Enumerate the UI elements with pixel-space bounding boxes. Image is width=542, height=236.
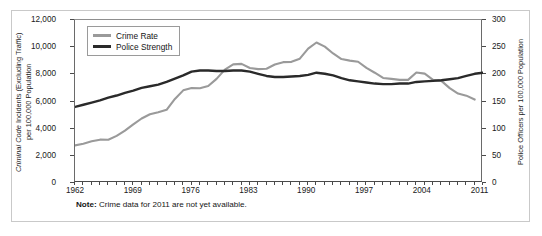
right-tick-200: 200 (492, 69, 506, 78)
left-tick-10000: 10,000 (31, 42, 56, 51)
x-minor-tick-1962 (74, 182, 75, 185)
x-tick-1969: 1969 (124, 186, 142, 195)
x-tick-1997: 1997 (355, 186, 373, 195)
x-minor-tick-1966 (107, 182, 108, 185)
x-minor-tick-1993 (332, 182, 333, 185)
x-minor-tick-1979 (216, 182, 217, 185)
x-minor-tick-2002 (407, 182, 408, 185)
left-tick-8000: 8,000 (36, 69, 57, 78)
x-minor-tick-1981 (232, 182, 233, 185)
x-minor-tick-1968 (124, 182, 125, 185)
x-minor-tick-2004 (424, 182, 425, 185)
x-minor-tick-2001 (399, 182, 400, 185)
x-minor-tick-1973 (166, 182, 167, 185)
legend-label-crime-rate: Crime Rate (116, 31, 158, 41)
x-minor-tick-1975 (182, 182, 183, 185)
x-minor-tick-1989 (299, 182, 300, 185)
legend-item-police-strength: Police Strength (93, 41, 172, 52)
legend-label-police-strength: Police Strength (116, 42, 172, 52)
x-minor-tick-1964 (91, 182, 92, 185)
left-tick-0: 0 (51, 178, 56, 187)
x-minor-tick-2009 (465, 182, 466, 185)
figure-note-label: Note: (76, 200, 97, 209)
x-minor-tick-2000 (390, 182, 391, 185)
x-minor-tick-1982 (241, 182, 242, 185)
x-tick-1962: 1962 (66, 186, 84, 195)
x-minor-tick-2008 (457, 182, 458, 185)
right-axis-title: Police Officers per 100,000 Population (516, 16, 526, 188)
x-tick-2011: 2011 (471, 186, 489, 195)
x-minor-tick-1974 (174, 182, 175, 185)
x-minor-tick-1963 (82, 182, 83, 185)
x-tick-1990: 1990 (297, 186, 315, 195)
left-tick-4000: 4,000 (36, 123, 57, 132)
figure-note-text: Crime data for 2011 are not yet availabl… (97, 200, 247, 209)
x-minor-tick-1994 (340, 182, 341, 185)
x-minor-tick-1983 (249, 182, 250, 185)
left-axis-title-line2: per 100,000 Population (24, 64, 33, 140)
x-minor-tick-1991 (315, 182, 316, 185)
x-tick-1976: 1976 (181, 186, 199, 195)
x-minor-tick-2006 (440, 182, 441, 185)
series-line-police-strength (75, 71, 483, 107)
x-minor-tick-1986 (274, 182, 275, 185)
legend-swatch-police-strength-icon (93, 45, 111, 48)
left-axis-title-italic: Criminal Code (14, 125, 23, 172)
x-minor-tick-1978 (207, 182, 208, 185)
x-minor-tick-1980 (224, 182, 225, 185)
x-minor-tick-1970 (141, 182, 142, 185)
legend-item-crime-rate: Crime Rate (93, 30, 172, 41)
x-minor-tick-2003 (415, 182, 416, 185)
x-minor-tick-1969 (132, 182, 133, 185)
right-tick-0: 0 (492, 178, 497, 187)
left-axis-title-rest: Incidents (Excluding Traffic) (14, 32, 23, 125)
left-tick-2000: 2,000 (36, 150, 57, 159)
x-tick-1983: 1983 (239, 186, 257, 195)
x-tick-2004: 2004 (413, 186, 431, 195)
x-minor-tick-1967 (116, 182, 117, 185)
x-minor-tick-1992 (324, 182, 325, 185)
x-minor-tick-1965 (99, 182, 100, 185)
left-tick-12000: 12,000 (31, 15, 56, 24)
right-tick-150: 150 (492, 96, 506, 105)
right-tick-100: 100 (492, 123, 506, 132)
x-minor-tick-2011 (482, 182, 483, 185)
x-minor-tick-2007 (449, 182, 450, 185)
right-tick-50: 50 (492, 150, 501, 159)
x-minor-tick-1971 (149, 182, 150, 185)
x-minor-tick-1990 (307, 182, 308, 185)
x-minor-tick-1999 (382, 182, 383, 185)
series-line-crime-rate (75, 43, 475, 146)
right-tick-250: 250 (492, 42, 506, 51)
right-tick-300: 300 (492, 15, 506, 24)
x-minor-tick-1984 (257, 182, 258, 185)
x-minor-tick-1988 (290, 182, 291, 185)
x-minor-tick-1972 (157, 182, 158, 185)
x-minor-tick-1998 (374, 182, 375, 185)
x-minor-tick-1996 (357, 182, 358, 185)
figure-container: Criminal Code Incidents (Excluding Traff… (0, 0, 542, 236)
x-minor-tick-1987 (282, 182, 283, 185)
x-minor-tick-1985 (266, 182, 267, 185)
left-tick-6000: 6,000 (36, 96, 57, 105)
x-minor-tick-1977 (199, 182, 200, 185)
x-minor-tick-1976 (191, 182, 192, 185)
legend-swatch-crime-rate-icon (93, 34, 111, 36)
x-minor-tick-2010 (474, 182, 475, 185)
figure-note: Note: Crime data for 2011 are not yet av… (76, 200, 247, 209)
x-minor-tick-2005 (432, 182, 433, 185)
x-minor-tick-1995 (349, 182, 350, 185)
chart-legend: Crime Rate Police Strength (87, 26, 180, 56)
x-minor-tick-1997 (365, 182, 366, 185)
